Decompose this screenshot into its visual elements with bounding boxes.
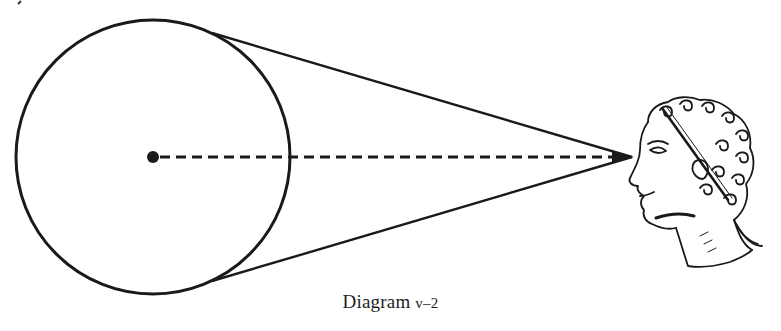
observer-head-icon <box>629 97 762 267</box>
eye-apex <box>612 151 634 163</box>
center-point <box>147 151 159 163</box>
stray-ink-mark <box>18 1 21 4</box>
caption-number: v–2 <box>415 295 438 311</box>
diagram-canvas <box>0 0 781 331</box>
figure-caption: Diagram v–2 <box>0 291 781 313</box>
caption-prefix: Diagram <box>343 291 411 312</box>
